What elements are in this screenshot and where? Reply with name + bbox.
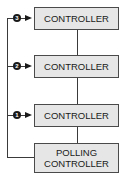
controller-box-2: CONTROLLER [34,55,119,78]
polling-label-line2: CONTROLLER [44,158,109,169]
controller-label: CONTROLLER [44,110,109,121]
polling-bus-line [7,18,8,158]
polling-controller-box: POLLING CONTROLLER [34,143,119,173]
polling-label-line1: POLLING [56,147,97,158]
arrow-1-icon [25,112,32,118]
polling-bus-bottom-link [7,157,34,158]
arrow-3-icon [25,15,32,21]
chain-link-3-polling [77,126,78,143]
chain-link-1-2 [77,29,78,55]
controller-label: CONTROLLER [44,61,109,72]
controller-box-3: CONTROLLER [34,7,119,30]
chain-link-2-3 [77,77,78,104]
step-3-badge: 3 [13,14,21,22]
controller-label: CONTROLLER [44,13,109,24]
step-2-badge: 2 [13,62,21,70]
arrow-2-icon [25,63,32,69]
step-1-badge: 1 [13,111,21,119]
controller-box-1: CONTROLLER [34,104,119,127]
